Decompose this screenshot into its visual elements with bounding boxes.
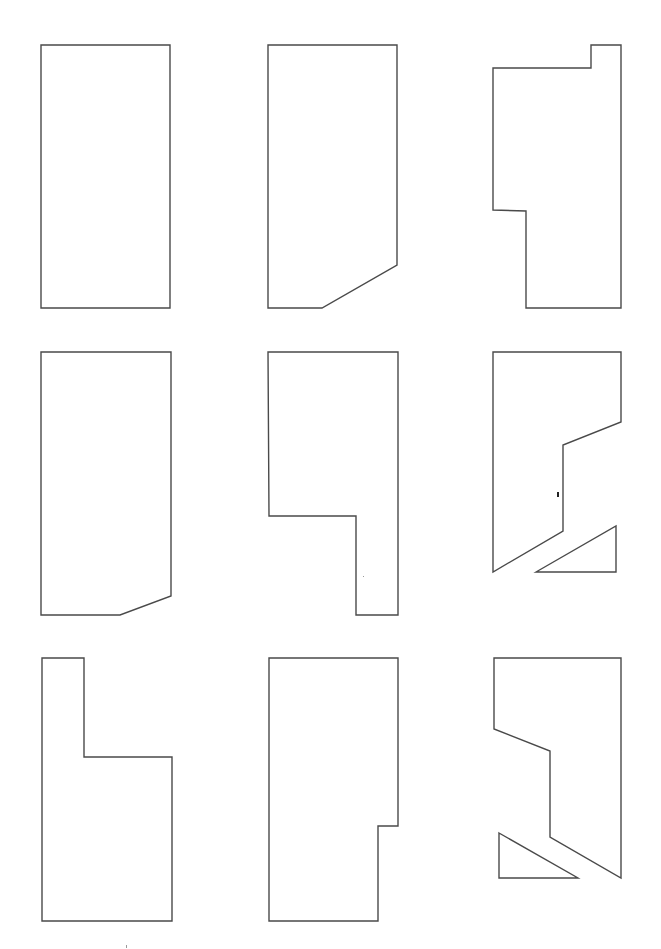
- small-bevel-rectangle: [41, 352, 171, 615]
- speck: [126, 945, 127, 948]
- cut-triangle-piece: [536, 526, 616, 572]
- shape-grid-figure: [0, 0, 661, 949]
- cut-main-piece: [493, 352, 621, 572]
- panel-r3c1: [42, 658, 172, 921]
- l-shape: [42, 658, 172, 921]
- panel-r2c1: [41, 352, 171, 615]
- panel-r1c2: [268, 45, 397, 308]
- panel-r2c2: [268, 352, 398, 615]
- speck: [363, 576, 364, 577]
- panel-r1c1: [41, 45, 170, 308]
- notched-tab-shape: [493, 45, 621, 308]
- notched-rectangle: [268, 352, 398, 615]
- panel-r3c3: [494, 658, 621, 878]
- plain-rectangle: [41, 45, 170, 308]
- cut-main-piece: [494, 658, 621, 878]
- cut-triangle-piece: [499, 833, 578, 878]
- ink-mark: [557, 492, 559, 497]
- panel-r1c3: [493, 45, 621, 308]
- panel-r2c3: [493, 352, 621, 572]
- small-notch-rectangle: [269, 658, 398, 921]
- panel-r3c2: [269, 658, 398, 921]
- beveled-rectangle: [268, 45, 397, 308]
